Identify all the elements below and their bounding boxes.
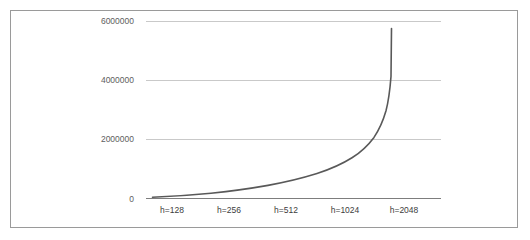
gridlines-group — [146, 22, 441, 140]
y-tick-label-4000000: 4000000 — [68, 75, 134, 85]
y-tick-label-6000000: 6000000 — [68, 16, 134, 26]
x-tick-label-h-1024: h=1024 — [331, 205, 360, 215]
x-tick-label-h-256: h=256 — [217, 205, 241, 215]
x-tick-label-h-2048: h=2048 — [390, 205, 419, 215]
x-tick-label-h-512: h=512 — [274, 205, 298, 215]
y-tick-label-0: 0 — [68, 194, 134, 204]
data-series-line — [153, 29, 392, 198]
x-tick-label-h-128: h=128 — [160, 205, 184, 215]
chart-container: 6000000 4000000 2000000 0 h=128 h=256 h=… — [0, 0, 530, 240]
chart-plot-area — [0, 0, 530, 240]
y-tick-label-2000000: 2000000 — [68, 134, 134, 144]
